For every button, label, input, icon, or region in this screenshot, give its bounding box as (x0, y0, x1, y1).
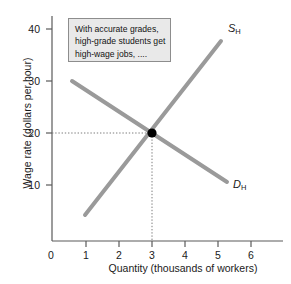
demand-curve-label-subscript: H (241, 183, 246, 192)
x-tick-label-1: 1 (76, 249, 96, 261)
y-axis-title: Wage rate (dollars per hour) (21, 48, 33, 198)
supply-curve (85, 41, 221, 215)
demand-curve-label-letter: D (233, 178, 241, 190)
x-tick-label-0: 0 (41, 249, 61, 261)
x-tick-label-6: 6 (241, 249, 261, 261)
annotation-line-1: With accurate grades, (75, 23, 165, 35)
supply-curve-label: SH (228, 22, 241, 34)
supply-curve-label-subscript: H (235, 27, 240, 36)
annotation-line-3: high-wage jobs, .... (75, 48, 165, 60)
x-tick-label-5: 5 (208, 249, 228, 261)
economics-supply-demand-figure: 40 30 20 10 0 1 2 3 4 5 6 Wage rate (dol… (0, 0, 291, 284)
annotation-callout-box: With accurate grades, high-grade student… (68, 18, 171, 62)
x-axis-title: Quantity (thousands of workers) (80, 262, 286, 274)
annotation-line-2: high-grade students get (75, 35, 165, 47)
x-tick-label-4: 4 (175, 249, 195, 261)
demand-curve-label: DH (233, 178, 246, 190)
x-tick-label-3: 3 (142, 249, 162, 261)
y-tick-label-40: 40 (18, 23, 40, 35)
equilibrium-point-marker (147, 128, 156, 137)
x-tick-label-2: 2 (109, 249, 129, 261)
